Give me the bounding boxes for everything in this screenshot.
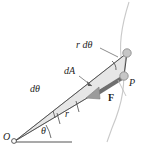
point-p-node: [120, 72, 128, 80]
label-origin: O: [3, 132, 10, 142]
label-r: r: [65, 109, 69, 119]
origin-circle: [12, 139, 17, 144]
upper-path-node: [123, 49, 131, 57]
label-r-dtheta: r dθ: [76, 40, 92, 50]
leader-line-r-dtheta: [100, 48, 118, 57]
label-dtheta: dθ: [30, 84, 40, 94]
label-point-p: P: [129, 78, 135, 88]
label-theta: θ: [41, 126, 46, 136]
figure-container: r dθ dA dθ r θ O P F: [0, 0, 144, 152]
theta-angle-arc: [46, 125, 51, 138]
label-dA: dA: [64, 66, 75, 76]
diagram-canvas: [0, 0, 144, 152]
label-force: F: [108, 93, 114, 103]
